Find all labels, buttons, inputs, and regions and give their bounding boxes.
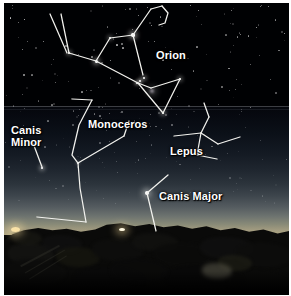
label-lepus-line-1: Lepus	[170, 146, 203, 158]
constellation-segment	[96, 38, 110, 61]
constellation-segment	[69, 53, 96, 61]
label-orion-line-1: Orion	[156, 50, 186, 62]
label-lepus: Lepus	[170, 146, 203, 158]
label-monoceros: Monoceros	[88, 119, 148, 131]
constellation-segment	[78, 136, 124, 163]
constellation-segment	[110, 35, 133, 38]
constellation-segment	[133, 9, 151, 35]
constellation-lines	[4, 3, 289, 295]
constellation-segment	[204, 103, 209, 117]
constellation-segment	[201, 117, 209, 133]
constellation-segment	[37, 217, 86, 222]
constellation-segment	[147, 193, 156, 231]
constellation-segment	[72, 100, 92, 163]
label-canis-minor-line-1: Canis	[11, 125, 41, 137]
label-canis-major: Canis Major	[159, 191, 222, 203]
label-monoceros-line-1: Monoceros	[88, 119, 148, 131]
constellation-segment	[72, 99, 92, 100]
label-canis-minor: CanisMinor	[11, 125, 41, 148]
label-orion: Orion	[156, 50, 186, 62]
constellation-segment	[133, 35, 143, 75]
constellation-segment	[78, 163, 86, 222]
constellation-segment	[201, 133, 218, 144]
constellation-segment	[96, 61, 138, 83]
constellation-canis-major	[147, 175, 168, 231]
constellation-segment	[159, 6, 168, 25]
constellation-segment	[218, 137, 240, 144]
label-canis-minor-line-2: Minor	[11, 137, 41, 149]
constellation-segment	[151, 6, 162, 9]
night-sky-photograph: OrionMonocerosCanisMinorLepusCanis Major	[4, 3, 289, 295]
label-canis-major-line-1: Canis Major	[159, 191, 222, 203]
constellation-segment	[174, 133, 201, 136]
